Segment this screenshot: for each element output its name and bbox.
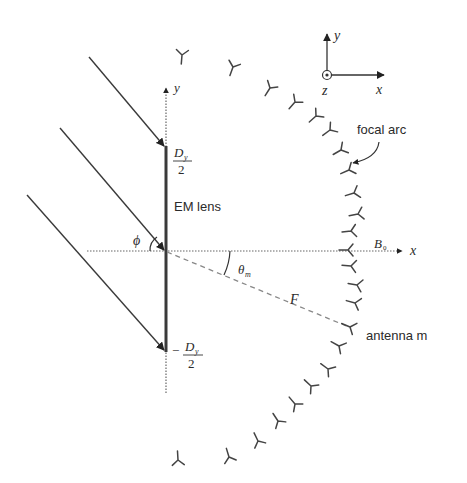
triad-y-label: y xyxy=(332,28,341,43)
focal-arc-pointer xyxy=(353,142,379,163)
bottom-aperture-label: − D y 2 xyxy=(172,339,203,371)
b0-sub-label: 0 xyxy=(383,244,387,252)
antenna-icon xyxy=(342,259,357,272)
b0-label: B xyxy=(374,236,382,251)
bottom-numerator: D xyxy=(184,339,195,354)
lens-x-axis-label: x xyxy=(409,243,417,258)
triad-z-dot xyxy=(325,73,328,76)
antenna-icon xyxy=(319,122,337,140)
bottom-sign: − xyxy=(172,343,179,358)
antenna-icon xyxy=(249,430,266,448)
top-numerator: D xyxy=(173,145,184,160)
focal-length-line xyxy=(167,252,349,327)
antenna-icon xyxy=(285,94,303,112)
antenna-b0-icon xyxy=(339,244,353,256)
theta-label: θ xyxy=(238,262,245,277)
coordinate-triad: y x z xyxy=(321,28,384,98)
theta-sub-label: m xyxy=(245,270,251,279)
phi-angle-arc xyxy=(150,237,157,251)
antenna-icon xyxy=(347,278,363,292)
antenna-icon xyxy=(224,60,240,77)
incident-rays xyxy=(27,57,164,350)
antenna-icon xyxy=(175,50,188,65)
antenna-icon xyxy=(300,375,318,393)
antenna-icon xyxy=(345,295,362,310)
antenna-m-label: antenna m xyxy=(366,328,427,343)
triad-x-label: x xyxy=(375,82,383,97)
antenna-icon xyxy=(260,81,278,99)
em-lens-diagram: y x EM lens ϕ D y 2 − D y 2 F θ m B 0 fo… xyxy=(0,0,467,483)
focal-arc-label: focal arc xyxy=(357,122,407,137)
antenna-icon xyxy=(221,447,237,464)
antenna-icon xyxy=(330,142,348,159)
antenna-icon xyxy=(285,393,303,411)
antenna-icon xyxy=(305,108,323,126)
antenna-icon xyxy=(317,359,335,377)
incident-ray xyxy=(89,57,164,146)
antenna-m-icon xyxy=(339,318,357,334)
bottom-denominator: 2 xyxy=(188,356,195,371)
top-denominator: 2 xyxy=(178,162,185,177)
antenna-icon xyxy=(328,336,346,353)
lens-y-axis-label: y xyxy=(172,80,180,95)
antenna-icon xyxy=(338,162,356,179)
incident-ray xyxy=(27,195,164,350)
theta-angle-arc xyxy=(224,251,230,275)
top-aperture-label: D y 2 xyxy=(173,145,192,177)
phi-label: ϕ xyxy=(133,233,140,248)
triad-z-label: z xyxy=(321,83,328,98)
em-lens-label: EM lens xyxy=(174,199,221,214)
antenna-icon xyxy=(341,224,356,237)
incident-ray xyxy=(60,128,164,250)
antenna-icon xyxy=(344,186,361,202)
antenna-array xyxy=(171,50,364,466)
antenna-icon xyxy=(268,410,286,428)
antenna-icon xyxy=(171,451,184,466)
focal-length-label: F xyxy=(289,292,299,307)
antenna-icon xyxy=(348,207,364,221)
